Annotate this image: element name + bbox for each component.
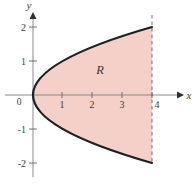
x-axis-label: x	[186, 89, 192, 101]
parabola-region-figure: y x R 0 1 2 3 4 2 1 -1 -2	[0, 0, 196, 184]
y-tick-label-neg2: -2	[18, 158, 26, 169]
y-axis-label: y	[26, 0, 32, 11]
y-axis-arrow-icon	[30, 12, 37, 19]
figure-canvas: y x R 0 1 2 3 4 2 1 -1 -2	[0, 0, 196, 184]
y-tick-label-2: 2	[21, 22, 26, 33]
x-tick-label-3: 3	[120, 99, 125, 110]
x-tick-label-4: 4	[155, 99, 160, 110]
x-tick-label-2: 2	[90, 99, 95, 110]
x-tick-label-1: 1	[60, 99, 65, 110]
region-label: R	[95, 63, 104, 77]
x-axis-arrow-icon	[177, 92, 184, 99]
y-tick-label-1: 1	[21, 56, 26, 67]
origin-label: 0	[17, 97, 22, 107]
y-tick-label-neg1: -1	[18, 124, 26, 135]
